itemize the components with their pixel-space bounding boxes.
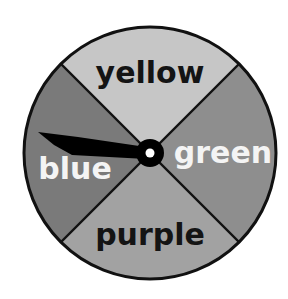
pointer-pin	[146, 149, 155, 158]
spinner: yellow green purple blue	[0, 0, 288, 299]
label-yellow: yellow	[96, 55, 205, 90]
label-green: green	[174, 135, 272, 170]
label-blue: blue	[38, 151, 111, 186]
label-purple: purple	[95, 217, 205, 252]
